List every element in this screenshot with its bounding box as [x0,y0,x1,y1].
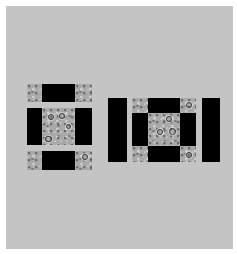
right-tile-r2c2-texture [148,113,180,146]
cell-ring [48,114,54,120]
cell-ring [186,152,192,158]
right-right-bar-black [202,98,220,162]
cell-ring [66,124,71,129]
right-tile-r1c1-texture [132,98,148,113]
left-tile-r1c2-black [42,84,75,102]
left-tile-r1c3-texture [75,84,92,102]
right-tile-r1c2-black [148,98,180,113]
right-tile-r2c3-black [180,113,196,146]
cell-ring [166,116,172,122]
left-tile-r2c1-black [27,108,42,145]
right-left-bar-black [108,98,127,162]
cell-ring [157,129,163,135]
cell-ring [59,113,65,119]
left-tile-r1c1-texture [27,84,42,102]
left-tile-r2c3-black [75,108,92,145]
left-tile-r2c2-texture [42,108,75,145]
cell-ring [45,136,52,142]
right-tile-r2c1-black [132,113,148,146]
cell-ring [186,102,192,108]
cell-ring [169,128,176,135]
right-tile-r3c2-black [148,146,180,162]
left-tile-r3c2-black [42,151,75,170]
left-tile-r3c3-texture [75,151,92,170]
cell-ring [82,154,88,160]
right-tile-r3c1-texture [132,146,148,162]
right-tile-r3c3-texture [180,146,196,162]
right-tile-r1c3-texture [180,98,196,113]
left-tile-r3c1-texture [27,151,42,170]
